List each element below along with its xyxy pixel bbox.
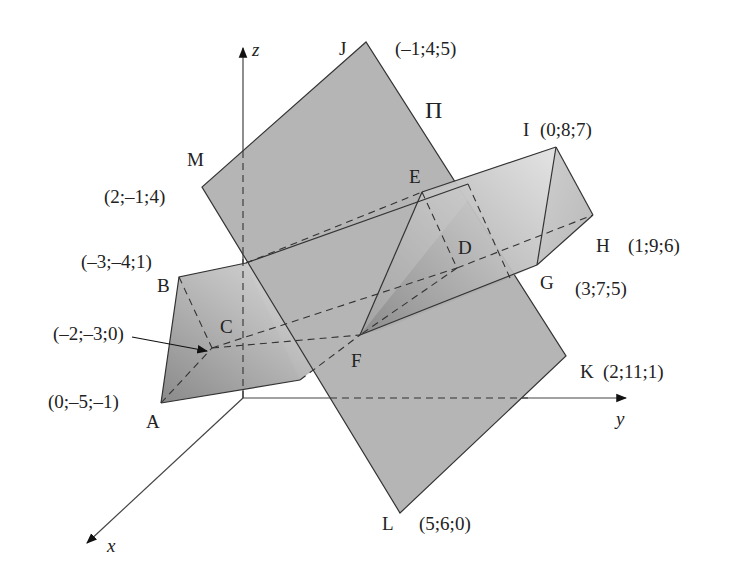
vertex-J-coords: (–1;4;5) bbox=[395, 38, 456, 60]
plane-label: Π bbox=[425, 97, 442, 123]
vertex-H-label: H bbox=[596, 235, 610, 256]
vertex-H-coords: (1;9;6) bbox=[628, 235, 680, 257]
vertex-M-coords: (2;–1;4) bbox=[104, 186, 165, 208]
vertex-A-label: A bbox=[146, 411, 160, 432]
z-axis-label: z bbox=[251, 39, 260, 60]
y-axis-label: y bbox=[614, 408, 625, 429]
vertex-M-label: M bbox=[187, 149, 204, 170]
vertex-E-label: E bbox=[409, 166, 421, 187]
vertex-C-label: C bbox=[220, 316, 233, 337]
x-axis bbox=[87, 398, 243, 543]
vertex-L-coords: (5;6;0) bbox=[419, 513, 471, 535]
vertex-C-coords: (–2;–3;0) bbox=[53, 323, 124, 345]
vertex-G-label: G bbox=[540, 272, 554, 293]
vertex-L-label: L bbox=[382, 513, 394, 534]
prism-plane-intersection-diagram: z y x Π J (–1;4;5) M (2;–1;4) L (5;6;0) … bbox=[0, 0, 734, 578]
vertex-I-label: I bbox=[523, 119, 529, 140]
vertex-A-coords: (0;–5;–1) bbox=[48, 391, 119, 413]
vertex-B-coords: (–3;–4;1) bbox=[81, 251, 152, 273]
vertex-B-label: B bbox=[157, 275, 170, 296]
vertex-G-coords: (3;7;5) bbox=[575, 278, 627, 300]
vertex-J-label: J bbox=[339, 38, 346, 59]
vertex-K-coords: (2;11;1) bbox=[603, 361, 664, 383]
x-axis-label: x bbox=[106, 535, 116, 556]
vertex-D-label: D bbox=[458, 237, 472, 258]
vertex-F-label: F bbox=[351, 350, 362, 371]
plane-pi bbox=[202, 42, 566, 513]
vertex-I-coords: (0;8;7) bbox=[540, 119, 592, 141]
vertex-K-label: K bbox=[580, 361, 594, 382]
